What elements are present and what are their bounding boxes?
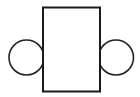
- left-circle: [9, 40, 44, 75]
- right-circle: [99, 40, 134, 75]
- shape-diagram: Rectangle flanked by two circles: [0, 0, 140, 97]
- center-rectangle: [43, 8, 100, 92]
- diagram-canvas: Rectangle flanked by two circles: [0, 0, 140, 97]
